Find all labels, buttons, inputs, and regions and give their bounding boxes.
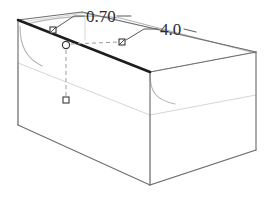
cad-viewport[interactable]: 0.70 4.0 [0, 0, 267, 207]
bottom-front-right-edge [150, 150, 256, 185]
fillet-top-band [26, 16, 255, 53]
top-face-front-right [150, 52, 256, 72]
interior-back-vertical [18, 63, 150, 115]
visible-edges-group [18, 12, 256, 185]
origin-control-point[interactable] [62, 41, 69, 48]
leader-line-length [126, 29, 158, 40]
hidden-edges-group [18, 13, 256, 185]
fillet-front-right [150, 74, 175, 104]
leader-underline-length [184, 29, 196, 32]
dimension-label-length[interactable]: 4.0 [160, 20, 181, 39]
depth-handle[interactable] [63, 97, 69, 103]
hidden-floor-back [150, 95, 256, 115]
fillet-top-left [20, 26, 42, 66]
dimension-label-radius[interactable]: 0.70 [86, 7, 116, 26]
bottom-front-left-edge [18, 125, 150, 185]
